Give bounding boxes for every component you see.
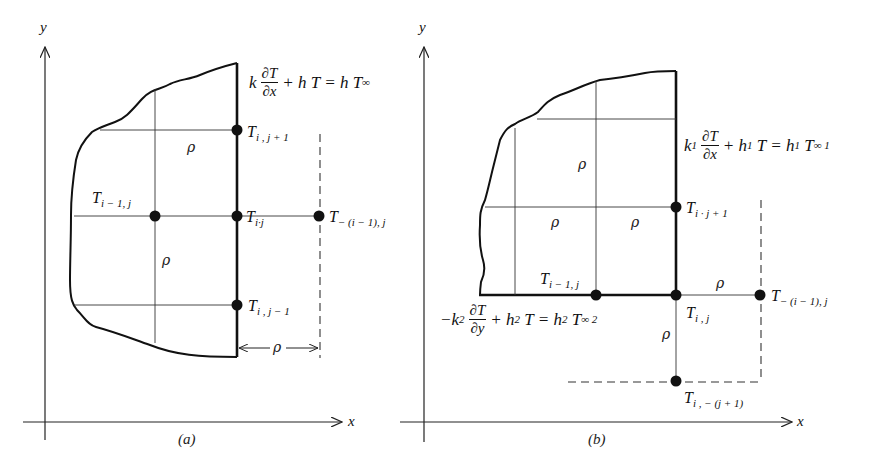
spacing-label-rho: ρ	[662, 327, 670, 341]
node-label-fict-a: T− (i − 1), j	[329, 209, 385, 228]
node-label-i-j-a: Ti·j	[246, 209, 264, 228]
node-base: T	[686, 199, 695, 216]
node-label-fict-y-b: Ti , − (j + 1)	[684, 390, 743, 409]
eq-T: T	[804, 137, 813, 154]
eq-sub: 1	[747, 140, 753, 151]
eq-k: k	[249, 74, 257, 91]
eq-fraction: ∂T ∂y	[469, 303, 487, 336]
node-fict-x-b	[755, 290, 766, 301]
boundary-condition-b-right: k1 ∂T ∂x + h1 T = h1 T∞ 1	[684, 129, 830, 162]
eq-mid: T = h	[524, 311, 562, 328]
panel-a	[23, 47, 342, 440]
eq-sub: 2	[562, 314, 568, 325]
spacing-label-rho: ρ	[273, 340, 281, 354]
node-base: T	[246, 208, 255, 225]
node-label-fict-x-b: T− (i − 1), j	[771, 288, 827, 307]
node-label-iminus1-j-b: Ti − 1, j	[540, 271, 579, 290]
boundary-condition-a: k ∂T ∂x + h T = h T∞	[249, 66, 370, 99]
panel-b	[400, 47, 792, 442]
eq-numerator: ∂T	[701, 129, 719, 146]
diagram-canvas	[0, 0, 882, 473]
body-outline-a	[70, 63, 237, 357]
node-base: T	[771, 287, 780, 304]
node-sub: i − 1, j	[549, 278, 579, 290]
node-sub: i − 1, j	[101, 197, 131, 209]
spacing-label-rho: ρ	[631, 215, 639, 229]
node-base: T	[329, 208, 338, 225]
node-sub: − (i − 1), j	[780, 295, 828, 307]
eq-h: + h	[490, 311, 514, 328]
eq-fraction: ∂T ∂x	[701, 129, 719, 162]
eq-rest: + h T = h T	[282, 74, 362, 91]
eq-mid: T = h	[757, 137, 795, 154]
node-sub: i , j + 1	[256, 131, 289, 143]
node-fict-y-b	[671, 376, 682, 387]
node-i-jplus1-b	[671, 202, 682, 213]
node-base: T	[247, 123, 256, 140]
node-i-jplus1-a	[232, 125, 243, 136]
x-axis-label-a: x	[348, 414, 355, 429]
eq-denominator: ∂y	[470, 320, 484, 336]
panel-caption-b: (b)	[588, 431, 606, 448]
node-base: T	[540, 270, 549, 287]
eq-infinity-sub: ∞	[362, 77, 370, 88]
eq-sub: 1	[692, 140, 698, 151]
node-iminus1-j-b	[591, 290, 602, 301]
panel-caption-a: (a)	[178, 431, 196, 448]
spacing-label-rho: ρ	[716, 276, 724, 290]
node-fict-a	[314, 211, 325, 222]
node-sub: i·j	[255, 216, 264, 228]
eq-k: k	[684, 137, 692, 154]
boundary-condition-b-bottom: −k2 ∂T ∂y + h2 T = h2 T∞ 2	[440, 303, 597, 336]
eq-sub: 2	[459, 314, 465, 325]
spacing-label-rho: ρ	[162, 253, 170, 267]
eq-infinity-sub: ∞ 2	[581, 314, 597, 325]
node-base: T	[684, 389, 693, 406]
body-outline-b	[480, 71, 676, 295]
spacing-label-rho: ρ	[578, 157, 586, 171]
eq-sub: 2	[515, 314, 521, 325]
eq-numerator: ∂T	[469, 303, 487, 320]
node-label-i-jminus1-a: Ti , j − 1	[248, 298, 290, 317]
node-iminus1-j-a	[150, 211, 161, 222]
eq-k: −k	[440, 311, 459, 328]
node-base: T	[92, 189, 101, 206]
node-sub: i , − (j + 1)	[693, 397, 743, 409]
eq-T: T	[572, 311, 581, 328]
node-label-iminus1-j-a: Ti − 1, j	[92, 190, 131, 209]
y-axis-label-b: y	[419, 20, 426, 35]
node-i-j-a	[232, 211, 243, 222]
eq-denominator: ∂x	[262, 83, 276, 99]
node-i-j-b	[671, 290, 682, 301]
node-sub: i · j + 1	[695, 207, 728, 219]
eq-sub: 1	[794, 140, 800, 151]
eq-fraction: ∂T ∂x	[261, 66, 279, 99]
node-sub: i , j	[695, 312, 709, 324]
node-label-i-jplus1-a: Ti , j + 1	[247, 124, 289, 143]
node-label-i-jplus1-b: Ti · j + 1	[686, 200, 728, 219]
x-axis-label-b: x	[797, 414, 804, 429]
y-axis-label-a: y	[40, 20, 47, 35]
spacing-label-rho: ρ	[187, 140, 195, 154]
node-base: T	[248, 297, 257, 314]
eq-infinity-sub: ∞ 1	[814, 140, 830, 151]
eq-numerator: ∂T	[261, 66, 279, 83]
node-i-jminus1-a	[232, 300, 243, 311]
eq-h: + h	[723, 137, 747, 154]
spacing-label-rho: ρ	[551, 215, 559, 229]
node-base: T	[686, 304, 695, 321]
node-sub: i , j − 1	[257, 305, 290, 317]
node-label-i-j-b: Ti , j	[686, 305, 709, 324]
node-sub: − (i − 1), j	[338, 216, 386, 228]
eq-denominator: ∂x	[703, 146, 717, 162]
